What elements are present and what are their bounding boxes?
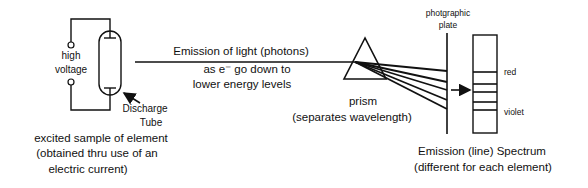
discharge-label-2: Tube (140, 117, 163, 128)
emission-spectrum-diagram: high voltage Discharge Tube excited samp… (0, 0, 588, 188)
tube-pointer-arrow (124, 93, 140, 103)
beam-sublabel-2: lower energy levels (193, 78, 292, 90)
high-voltage-label-1: high (62, 50, 81, 61)
spectrum-caption-2: (different for each element) (414, 161, 552, 173)
spectrum-caption-1: Emission (line) Spectrum (418, 145, 546, 157)
source-caption-2: (obtained thru use of an (36, 147, 157, 159)
source-caption-1: excited sample of element (34, 132, 168, 144)
terminal-top (68, 42, 74, 48)
discharge-label-1: Discharge (122, 103, 167, 114)
high-voltage-circuit: high voltage (55, 19, 110, 110)
beam-sublabel-1: as e⁻ go down to (203, 63, 290, 75)
red-label: red (504, 67, 517, 77)
terminal-bottom (68, 79, 74, 85)
prism-label: prism (349, 95, 377, 107)
discharge-tube (99, 31, 121, 96)
plate-label-2: plate (439, 20, 458, 30)
spectrum-box (473, 35, 497, 133)
source-caption-3: electric current) (48, 163, 127, 175)
violet-label: violet (504, 107, 524, 117)
bottom-wire (71, 85, 110, 110)
beam-label: Emission of light (photons) (173, 45, 309, 57)
prism-sublabel: (separates wavelength) (292, 111, 412, 123)
high-voltage-label-2: voltage (55, 64, 88, 75)
plate-label-1: photgraphic (426, 8, 471, 18)
